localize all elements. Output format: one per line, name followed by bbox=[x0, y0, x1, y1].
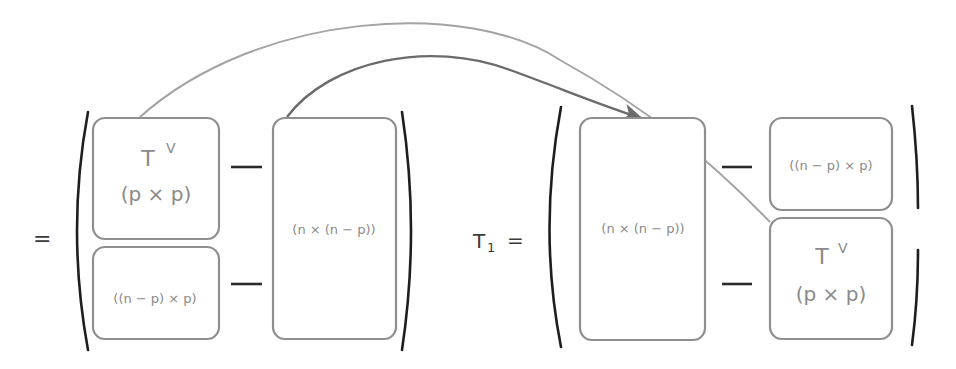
block-tv-top-left: T V (p × p) bbox=[93, 118, 219, 239]
block-dims: (p × p) bbox=[121, 182, 191, 206]
right-matrix: T 1 = (n × (n − p)) ((n − p) × p) T V (p… bbox=[472, 106, 918, 347]
right-paren-close-top bbox=[912, 106, 918, 208]
right-paren-open bbox=[550, 107, 562, 347]
block-title: T bbox=[140, 146, 155, 171]
block-dims: ((n − p) × p) bbox=[789, 158, 872, 173]
block-left-tall: (n × (n − p)) bbox=[580, 118, 705, 340]
block-dims: (n × (n − p)) bbox=[601, 221, 684, 236]
block-top-right: ((n − p) × p) bbox=[770, 118, 892, 210]
right-paren-close-bottom bbox=[912, 250, 918, 345]
block-dims: (n × (n − p)) bbox=[292, 222, 375, 237]
arc-right-block-to-left-block bbox=[287, 56, 641, 118]
block-dims: (p × p) bbox=[796, 282, 866, 306]
block-dims: ((n − p) × p) bbox=[113, 291, 196, 306]
left-paren-open bbox=[77, 112, 88, 350]
t1-subscript: 1 bbox=[487, 240, 495, 255]
equals-sign-left: = bbox=[33, 226, 51, 251]
left-matrix: = T V (p × p) ((n − p) × p) (n × (n − p)… bbox=[33, 112, 411, 350]
block-tv-bottom-right: T V (p × p) bbox=[770, 218, 892, 339]
block-superscript: V bbox=[838, 240, 848, 256]
block-bottom-left: ((n − p) × p) bbox=[93, 247, 219, 339]
left-paren-close bbox=[402, 112, 411, 350]
block-superscript: V bbox=[166, 140, 176, 156]
t1-label: T bbox=[472, 229, 486, 253]
equals-sign-right: = bbox=[507, 228, 524, 252]
block-title: T bbox=[814, 244, 829, 269]
block-right-tall: (n × (n − p)) bbox=[273, 118, 396, 339]
matrix-permutation-diagram: = T V (p × p) ((n − p) × p) (n × (n − p)… bbox=[0, 0, 956, 369]
